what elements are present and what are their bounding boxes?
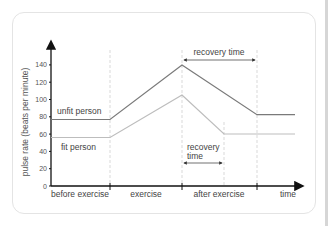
y-tick-20: 20	[39, 165, 47, 172]
fit-person-label: fit person	[61, 142, 96, 152]
y-tick-60: 60	[39, 131, 47, 138]
phase-label-before-exercise: before exercise	[51, 189, 109, 199]
y-tick-0: 0	[43, 183, 47, 190]
phase-label-exercise: exercise	[130, 189, 162, 199]
fit-person-line	[51, 95, 295, 138]
y-tick-120: 120	[35, 79, 47, 86]
x-axis-label: time	[280, 189, 296, 199]
y-tick-140: 140	[35, 61, 47, 68]
y-tick-labels: 0 20 40 60 80 100 120 140	[35, 61, 47, 189]
unfit-person-label: unfit person	[57, 106, 102, 116]
recovery-time-label-unfit: recovery time	[193, 47, 244, 57]
phase-dividers	[110, 50, 257, 186]
recovery-label-fit-line2: time	[187, 151, 203, 161]
phase-label-after-exercise: after exercise	[193, 189, 244, 199]
y-axis-label: pulse rate (beats per minute)	[20, 68, 30, 177]
y-tick-100: 100	[35, 96, 47, 103]
y-tick-80: 80	[39, 113, 47, 120]
pulse-rate-chart: 0 20 40 60 80 100 120 140 pulse rate (be…	[0, 0, 332, 226]
y-tick-40: 40	[39, 148, 47, 155]
